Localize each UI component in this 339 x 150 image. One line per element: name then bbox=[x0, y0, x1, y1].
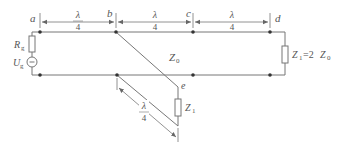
svg-text:g: g bbox=[20, 62, 24, 70]
node-d-bottom bbox=[268, 73, 272, 77]
fraction-ab: λ 4 bbox=[73, 9, 83, 32]
svg-text:λ: λ bbox=[75, 9, 81, 20]
svg-text:Z: Z bbox=[320, 49, 326, 60]
fraction-stub: λ 4 bbox=[139, 100, 149, 123]
svg-text:R: R bbox=[13, 39, 20, 50]
main-line bbox=[40, 32, 285, 75]
svg-text:4: 4 bbox=[76, 22, 81, 32]
svg-text:λ: λ bbox=[152, 9, 158, 20]
stub-load-resistor bbox=[175, 99, 181, 116]
node-c-bottom bbox=[191, 73, 195, 77]
source-circuit bbox=[27, 32, 40, 75]
svg-text:λ: λ bbox=[229, 9, 235, 20]
svg-text:0: 0 bbox=[327, 54, 331, 62]
source-resistor-label: R g bbox=[13, 39, 25, 52]
svg-text:4: 4 bbox=[153, 22, 158, 32]
nodes bbox=[38, 30, 272, 77]
node-b-top bbox=[114, 30, 118, 34]
svg-text:4: 4 bbox=[230, 22, 235, 32]
node-c-top bbox=[191, 30, 195, 34]
node-a-bottom bbox=[38, 73, 42, 77]
transmission-line-diagram: λ 4 λ 4 λ 4 λ 4 a b c d e R g U g Z 0 Z … bbox=[0, 0, 339, 150]
svg-text:λ: λ bbox=[141, 100, 147, 111]
load-circuit bbox=[282, 32, 288, 75]
svg-text:Z: Z bbox=[169, 51, 176, 63]
fraction-bc: λ 4 bbox=[150, 9, 160, 32]
fraction-cd: λ 4 bbox=[227, 9, 237, 32]
svg-text:0: 0 bbox=[176, 57, 180, 65]
load-resistor bbox=[282, 46, 288, 63]
node-a-top bbox=[38, 30, 42, 34]
stub-load-impedance-label: Z 1 bbox=[185, 102, 196, 115]
svg-text:4: 4 bbox=[142, 113, 147, 123]
node-label-b: b bbox=[107, 7, 113, 19]
node-label-a: a bbox=[30, 12, 36, 24]
line-impedance-label: Z 0 bbox=[169, 51, 180, 65]
svg-text:Z: Z bbox=[292, 49, 298, 60]
node-label-e: e bbox=[181, 80, 186, 91]
node-label-c: c bbox=[186, 7, 191, 19]
source-resistor bbox=[29, 36, 35, 52]
load-impedance-label: Z 1 =2 Z 0 bbox=[292, 49, 331, 62]
node-label-d: d bbox=[275, 12, 281, 24]
svg-text:Z: Z bbox=[185, 102, 191, 113]
svg-text:=2: =2 bbox=[303, 49, 314, 60]
svg-text:g: g bbox=[21, 44, 25, 52]
node-b-bottom bbox=[115, 73, 119, 77]
svg-text:1: 1 bbox=[192, 107, 196, 115]
source-voltage-label: U g bbox=[13, 57, 24, 70]
node-d-top bbox=[268, 30, 272, 34]
